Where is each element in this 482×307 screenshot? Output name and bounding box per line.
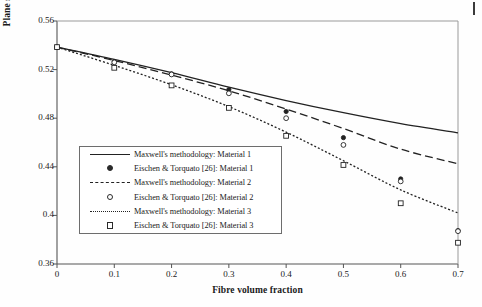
y-axis-title: Plane strain Poisson's ratio	[2, 0, 12, 50]
legend-item-label: Eischen & Torquato [26]: Material 3	[134, 221, 253, 230]
legend-item: Eischen & Torquato [26]: Material 3	[80, 218, 281, 232]
legend-item-label: Maxwell's methodology: Material 1	[134, 150, 251, 159]
y-tick-label: 0.56	[20, 16, 54, 25]
data-point-marker	[169, 83, 174, 88]
y-tick-label: 0.4	[20, 210, 54, 219]
x-tick-label: 0.4	[271, 270, 301, 279]
solid-line-key	[86, 147, 134, 161]
x-tick-label: 0.1	[99, 270, 129, 279]
y-tick-label: 0.36	[20, 259, 54, 268]
y-tick-label: 0.48	[20, 113, 54, 122]
x-axis-title: Fibre volume fraction	[57, 285, 458, 295]
legend-item-label: Eischen & Torquato [26]: Material 2	[134, 193, 253, 202]
legend-item: Maxwell's methodology: Material 1	[80, 147, 281, 161]
y-tick-label: 0.52	[20, 65, 54, 74]
chart-container: 0.560.520.480.440.40.36 00.10.20.30.40.5…	[0, 0, 482, 307]
figure-root: 0.560.520.480.440.40.36 00.10.20.30.40.5…	[0, 0, 482, 307]
data-point-marker	[398, 201, 403, 206]
data-point-marker	[112, 60, 117, 65]
x-tick-label: 0.5	[328, 270, 358, 279]
y-tick-label: 0.44	[20, 162, 54, 171]
open-square-marker-key	[86, 219, 134, 233]
x-tick-label: 0.6	[386, 270, 416, 279]
data-point-marker	[341, 143, 346, 148]
y-axis-title-text: Plane strain Poisson's ratio	[2, 0, 12, 50]
x-tick-label: 0.3	[214, 270, 244, 279]
data-point-marker	[112, 65, 117, 70]
legend-item-label: Maxwell's methodology: Material 2	[134, 178, 251, 187]
data-point-marker	[169, 72, 174, 77]
dotted-line-key	[86, 204, 134, 218]
data-point-marker	[55, 45, 60, 50]
data-point-marker	[341, 136, 345, 140]
data-point-marker	[284, 133, 289, 138]
open-circle-marker-key	[86, 190, 134, 204]
chart-legend: Maxwell's methodology: Material 1 Eische…	[79, 146, 282, 234]
data-point-marker	[456, 229, 461, 234]
legend-item: Maxwell's methodology: Material 2	[80, 176, 281, 190]
data-point-marker	[284, 116, 289, 121]
legend-item-label: Eischen & Torquato [26]: Material 1	[134, 164, 253, 173]
dashed-line-key	[86, 176, 134, 190]
data-point-marker	[284, 109, 288, 113]
y-tick-labels: 0.560.520.480.440.40.36	[14, 0, 54, 307]
data-point-marker	[456, 240, 461, 245]
legend-item-label: Maxwell's methodology: Material 3	[134, 207, 251, 216]
data-point-marker	[226, 105, 231, 110]
x-tick-label: 0	[42, 270, 72, 279]
filled-circle-marker-key	[86, 161, 134, 175]
series-line	[57, 47, 458, 133]
data-point-marker	[341, 163, 346, 168]
data-point-marker	[226, 91, 231, 96]
x-tick-label: 0.2	[157, 270, 187, 279]
legend-item: Eischen & Torquato [26]: Material 2	[80, 190, 281, 204]
legend-item: Maxwell's methodology: Material 3	[80, 204, 281, 218]
data-point-marker	[398, 179, 403, 184]
x-tick-label: 0.7	[443, 270, 473, 279]
legend-item: Eischen & Torquato [26]: Material 1	[80, 161, 281, 175]
